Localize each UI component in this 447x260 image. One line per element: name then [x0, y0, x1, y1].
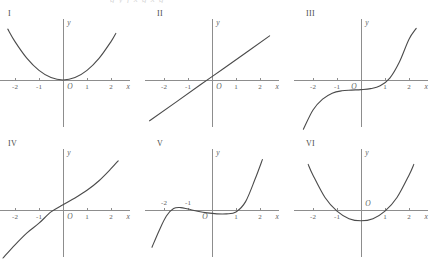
tick-label: -1 [334, 83, 340, 91]
tick-label: 1 [234, 83, 238, 91]
tick-label: 1 [85, 213, 89, 221]
tick-label: -2 [161, 199, 167, 207]
panel-label: I [8, 9, 11, 18]
tick-label: -2 [310, 213, 316, 221]
origin-label: O [365, 199, 371, 208]
y-axis-label: y [66, 148, 71, 157]
curve-I [8, 29, 116, 80]
graph-panel-IV: -2-112OxyIV [0, 130, 149, 260]
tick-label: -1 [36, 83, 42, 91]
tick-label: 2 [109, 83, 113, 91]
y-axis-label: y [364, 18, 369, 27]
tick-label: 1 [85, 83, 89, 91]
tick-label: 1 [383, 83, 387, 91]
origin-label: O [67, 82, 73, 91]
graph-panel-V: -2-112OxyV [149, 130, 298, 260]
x-axis-label: x [275, 212, 280, 221]
tick-label: -2 [310, 83, 316, 91]
tick-label: -2 [161, 83, 167, 91]
x-axis-label: x [126, 212, 131, 221]
tick-label: -1 [185, 199, 191, 207]
curve-III [303, 28, 416, 129]
y-axis-label: y [215, 148, 220, 157]
y-axis-label: y [215, 18, 220, 27]
panel-label: VI [306, 139, 315, 148]
figure-grid: g y f x g x g -2-112OxyI -2-112OxyII -2-… [0, 0, 447, 260]
panel-label: III [306, 9, 315, 18]
origin-label: O [216, 82, 222, 91]
tick-label: -1 [334, 213, 340, 221]
panel-label: V [157, 139, 163, 148]
tick-label: -1 [185, 83, 191, 91]
y-axis-label: y [66, 18, 71, 27]
tick-label: 2 [258, 83, 262, 91]
x-axis-label: x [424, 82, 429, 91]
origin-label: O [67, 212, 73, 221]
tick-label: 1 [234, 213, 238, 221]
graph-panel-II: -2-112OxyII [149, 0, 298, 130]
tick-label: -1 [36, 213, 42, 221]
tick-label: -2 [12, 213, 18, 221]
curve-V [152, 160, 262, 248]
curve-II [150, 36, 270, 121]
tick-label: 2 [407, 83, 411, 91]
graph-panel-III: -2-112OxyIII [298, 0, 447, 130]
y-axis-label: y [364, 148, 369, 157]
panel-label: II [157, 9, 163, 18]
x-axis-label: x [424, 212, 429, 221]
tick-label: -2 [12, 83, 18, 91]
graph-panel-I: -2-112OxyI [0, 0, 149, 130]
tick-label: 2 [109, 213, 113, 221]
x-axis-label: x [275, 82, 280, 91]
panel-label: IV [8, 139, 17, 148]
curve-IV [3, 161, 118, 258]
x-axis-label: x [126, 82, 131, 91]
graph-panel-VI: -2-112OxyVI [298, 130, 447, 260]
tick-label: 2 [407, 213, 411, 221]
tick-label: 1 [383, 213, 387, 221]
tick-label: 2 [258, 213, 262, 221]
